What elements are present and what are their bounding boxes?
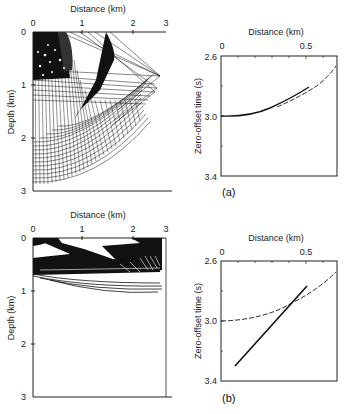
y-tick: 0 bbox=[21, 27, 26, 37]
figure: Distance (km) 0 1 2 3 0 1 2 3 Depth (km) bbox=[0, 0, 345, 414]
panel-label: (b) bbox=[222, 392, 235, 404]
y-axis-label: Depth (km) bbox=[6, 90, 16, 135]
y-tick: 2.6 bbox=[204, 52, 217, 62]
ray-plot-b: Distance (km) 0 1 2 3 0 1 2 3 Depth (km) bbox=[6, 210, 172, 402]
y-tick: 3.0 bbox=[204, 316, 217, 326]
y-tick: 2.6 bbox=[204, 256, 217, 266]
ray-band bbox=[33, 238, 162, 293]
x-tick: 3 bbox=[163, 18, 168, 28]
time-plot-b: Distance (km) 0 0.5 2.6 3.0 3.4 Zero-off… bbox=[193, 233, 337, 404]
x-tick: 2 bbox=[130, 18, 135, 28]
time-plot-a: Distance (km) 0 0.5 2.6 3.0 3.4 Zero-off… bbox=[193, 27, 337, 198]
y-tick: 1 bbox=[21, 80, 26, 90]
x-tick: 0 bbox=[219, 41, 224, 51]
x-tick: 0 bbox=[219, 247, 224, 257]
ray-fan bbox=[33, 32, 160, 184]
x-tick: 1 bbox=[79, 224, 84, 234]
y-tick: 1 bbox=[21, 286, 26, 296]
x-axis-label: Distance (km) bbox=[70, 4, 126, 14]
y-tick: 3.4 bbox=[204, 376, 217, 386]
y-tick: 3 bbox=[21, 186, 26, 196]
x-tick: 0.5 bbox=[300, 41, 313, 51]
y-tick: 3.0 bbox=[204, 112, 217, 122]
y-tick: 2 bbox=[21, 133, 26, 143]
x-tick: 1 bbox=[79, 18, 84, 28]
x-axis-label: Distance (km) bbox=[248, 233, 304, 243]
x-axis-label: Distance (km) bbox=[248, 27, 304, 37]
y-tick: 0 bbox=[21, 233, 26, 243]
x-tick: 2 bbox=[130, 224, 135, 234]
y-tick: 2 bbox=[21, 339, 26, 349]
x-tick: 3 bbox=[163, 224, 168, 234]
y-tick: 3.4 bbox=[204, 172, 217, 182]
y-axis-label: Zero-offset time (s) bbox=[193, 283, 203, 359]
y-axis-label: Zero-offset time (s) bbox=[193, 78, 203, 154]
ray-plot-a: Distance (km) 0 1 2 3 0 1 2 3 Depth (km) bbox=[6, 4, 172, 196]
x-axis-label: Distance (km) bbox=[70, 210, 126, 220]
dashed-curve bbox=[221, 272, 336, 321]
x-tick: 0.5 bbox=[300, 247, 313, 257]
panel-label: (a) bbox=[222, 186, 235, 198]
x-tick: 0 bbox=[30, 18, 35, 28]
y-tick: 3 bbox=[21, 392, 26, 402]
solid-line bbox=[235, 286, 307, 366]
x-tick: 0 bbox=[30, 224, 35, 234]
y-axis-label: Depth (km) bbox=[6, 296, 16, 341]
solid-curve bbox=[221, 87, 309, 116]
